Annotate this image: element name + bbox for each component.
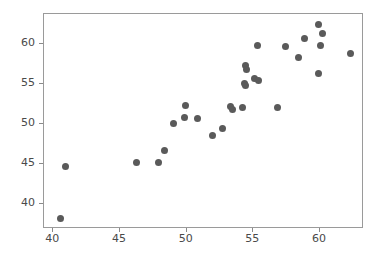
- data-point: [315, 21, 322, 28]
- data-point: [317, 42, 324, 49]
- data-point: [62, 163, 69, 170]
- y-axis-tick-label: 40: [0, 197, 35, 208]
- data-point: [243, 66, 250, 73]
- x-axis-tick-mark: [186, 228, 187, 232]
- data-point: [242, 82, 249, 89]
- y-axis-tick-label: 50: [0, 117, 35, 128]
- x-axis-tick-label: 45: [99, 233, 139, 244]
- data-point: [295, 54, 302, 61]
- y-axis-tick-mark: [39, 83, 43, 84]
- data-point: [319, 30, 326, 37]
- data-point: [301, 35, 308, 42]
- x-axis-tick-mark: [319, 228, 320, 232]
- data-point: [274, 104, 281, 111]
- x-axis-tick-label: 50: [166, 233, 206, 244]
- data-point: [194, 115, 201, 122]
- data-point: [255, 77, 262, 84]
- x-axis-tick-mark: [119, 228, 120, 232]
- data-point: [181, 114, 188, 121]
- y-axis-tick-label: 55: [0, 77, 35, 88]
- data-point: [219, 125, 226, 132]
- y-axis-tick-mark: [39, 43, 43, 44]
- y-axis-tick-mark: [39, 163, 43, 164]
- y-axis-tick-mark: [39, 123, 43, 124]
- data-point: [57, 215, 64, 222]
- y-axis-tick-label: 45: [0, 157, 35, 168]
- data-point: [133, 159, 140, 166]
- scatter-plot-figure: 40455055604045505560: [0, 0, 385, 262]
- x-axis-tick-label: 55: [232, 233, 272, 244]
- x-axis-tick-mark: [52, 228, 53, 232]
- x-axis-tick-label: 40: [32, 233, 72, 244]
- plot-area: [43, 13, 363, 228]
- data-point: [282, 43, 289, 50]
- data-point: [254, 42, 261, 49]
- x-axis-tick-mark: [252, 228, 253, 232]
- data-point: [239, 104, 246, 111]
- data-point: [161, 147, 168, 154]
- y-axis-tick-mark: [39, 203, 43, 204]
- data-point: [229, 106, 236, 113]
- x-axis-tick-label: 60: [299, 233, 339, 244]
- data-point: [347, 50, 354, 57]
- data-point: [155, 159, 162, 166]
- data-point: [315, 70, 322, 77]
- data-point: [209, 132, 216, 139]
- data-point: [182, 102, 189, 109]
- y-axis-tick-label: 60: [0, 37, 35, 48]
- data-point: [170, 120, 177, 127]
